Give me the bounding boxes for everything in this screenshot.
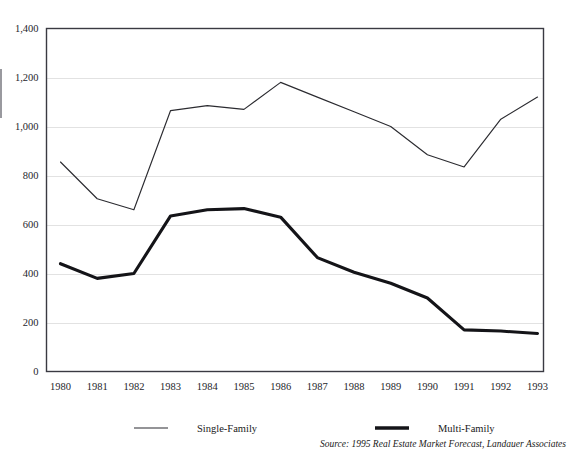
gridlines-group bbox=[47, 79, 544, 324]
x-axis-tick-label: 1980 bbox=[50, 381, 71, 392]
y-axis-tick-labels: 02004006008001,0001,2001,400 bbox=[15, 23, 39, 377]
legend: Single-Family Multi-Family bbox=[134, 423, 495, 434]
x-axis-tick-label: 1987 bbox=[307, 381, 328, 392]
x-axis-tick-labels: 1980198119821983198419851986198719881989… bbox=[50, 381, 548, 392]
series-group bbox=[61, 82, 538, 333]
series-line-single-family bbox=[61, 82, 538, 209]
y-axis-tick-label: 0 bbox=[33, 366, 38, 377]
x-axis-tick-label: 1986 bbox=[270, 381, 291, 392]
line-chart-canvas: 02004006008001,0001,2001,400 19801981198… bbox=[0, 0, 573, 454]
legend-label-multi-family: Multi-Family bbox=[438, 423, 495, 434]
plot-frame bbox=[47, 29, 544, 372]
chart-figure: ———————— 02004006008001,0001,2001,400 19… bbox=[0, 0, 573, 454]
x-axis-tick-label: 1993 bbox=[527, 381, 548, 392]
source-note: Source: 1995 Real Estate Market Forecast… bbox=[320, 439, 566, 449]
y-axis-tick-label: 400 bbox=[23, 268, 39, 279]
y-axis-tick-label: 1,000 bbox=[15, 121, 39, 132]
x-axis-tick-label: 1988 bbox=[344, 381, 365, 392]
series-line-multi-family bbox=[61, 209, 538, 334]
x-axis-tick-label: 1989 bbox=[380, 381, 401, 392]
x-axis-tick-label: 1982 bbox=[123, 381, 144, 392]
x-axis-tick-label: 1990 bbox=[417, 381, 438, 392]
legend-label-single-family: Single-Family bbox=[197, 423, 258, 434]
x-axis-tick-label: 1985 bbox=[233, 381, 254, 392]
x-axis-tick-label: 1983 bbox=[160, 381, 181, 392]
x-axis-tick-label: 1991 bbox=[454, 381, 475, 392]
y-axis-tick-label: 1,400 bbox=[15, 23, 39, 34]
y-axis-tick-label: 600 bbox=[23, 219, 39, 230]
y-axis-tick-label: 1,200 bbox=[15, 72, 39, 83]
x-axis-tick-label: 1992 bbox=[490, 381, 511, 392]
y-axis-tick-label: 200 bbox=[23, 317, 39, 328]
x-axis-tick-label: 1981 bbox=[87, 381, 108, 392]
x-axis-tick-label: 1984 bbox=[197, 381, 219, 392]
y-axis-tick-label: 800 bbox=[23, 170, 39, 181]
